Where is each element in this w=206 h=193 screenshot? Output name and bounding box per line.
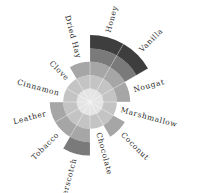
category-label: Butterscotch — [55, 157, 78, 193]
category-label: Clove — [48, 59, 72, 83]
category-label: Cinnamon — [16, 78, 60, 98]
category-label: Marshmallow — [120, 105, 179, 129]
category-label: Chocolate — [94, 131, 114, 175]
category-label: Leather — [12, 109, 47, 127]
category-label: Dried Hay — [63, 14, 83, 59]
category-label: Coconut — [119, 130, 151, 162]
category-label: Vanilla — [137, 26, 165, 54]
category-label: Tobacco — [29, 130, 60, 161]
category-label: Honey — [104, 4, 120, 33]
category-label: Nougat — [132, 77, 165, 94]
flavor-wheel-chart: HoneyDried HayCloveCinnamonLeatherTobacc… — [0, 0, 206, 193]
